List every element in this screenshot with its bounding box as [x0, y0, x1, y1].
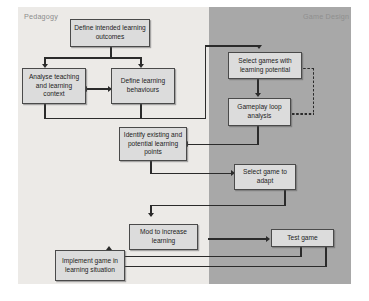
edge-gameplay-feedback-horizontal — [292, 113, 314, 115]
edge-pedagogy-bus — [44, 118, 206, 120]
edge-identify-to-adapt — [150, 173, 233, 175]
node-define-intended-learning-outcomes[interactable]: Define intended learning outcomes — [70, 19, 150, 47]
node-define-learning-behaviours[interactable]: Define learning behaviours — [111, 68, 175, 104]
node-mod-to-increase-learning[interactable]: Mod to increase learning — [129, 224, 198, 250]
edge-gameplay-to-identify — [188, 144, 259, 146]
edge-test-to-mod-return — [108, 256, 302, 258]
edge-adapt-to-mod-bus — [150, 205, 285, 207]
edge-gameplay-feedback-vertical — [313, 68, 315, 114]
node-analyse-teaching-and-learning-context[interactable]: Analyse teaching and learning context — [22, 68, 86, 104]
arrowhead-to-test-game — [266, 236, 270, 242]
edge-bus-riser — [205, 45, 207, 119]
node-select-games-with-learning-potential[interactable]: Select games with learning potential — [228, 52, 302, 79]
node-identify-existing-and-potential-learning-points[interactable]: Identify existing and potential learning… — [119, 127, 187, 161]
panel-label-game-design: Game Design — [303, 12, 349, 21]
node-gameplay-loop-analysis[interactable]: Gameplay loop analysis — [228, 98, 291, 126]
edge-outcomes-bus — [44, 57, 140, 59]
edge-bus-to-select-games — [205, 45, 260, 47]
edge-test-to-implement — [95, 266, 326, 268]
edge-gameplay-down — [257, 126, 259, 145]
node-test-game[interactable]: Test game — [271, 229, 334, 247]
edge-test-down-long — [325, 247, 327, 267]
edge-mod-to-test — [208, 238, 268, 240]
arrowhead-to-mod — [148, 213, 154, 217]
node-select-game-to-adapt[interactable]: Select game to adapt — [234, 164, 296, 190]
diagram-canvas: Pedagogy Game Design — [0, 0, 369, 301]
node-implement-game-in-learning-situation[interactable]: Implement game in learning situation — [55, 250, 125, 281]
panel-label-pedagogy: Pedagogy — [24, 12, 58, 21]
arrowhead-to-select-games — [256, 45, 262, 49]
arrowhead-to-gameplay — [255, 93, 261, 97]
